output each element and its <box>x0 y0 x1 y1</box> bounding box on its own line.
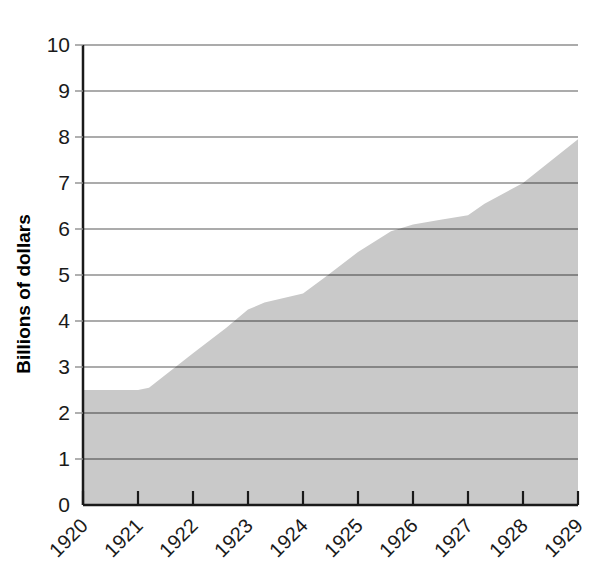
chart-container: 012345678910 192019211922192319241925192… <box>0 0 605 583</box>
y-tick-label-7: 7 <box>58 171 70 194</box>
y-tick-label-3: 3 <box>58 355 70 378</box>
y-tick-label-6: 6 <box>58 217 70 240</box>
y-tick-label-8: 8 <box>58 125 70 148</box>
y-tick-label-1: 1 <box>58 447 70 470</box>
y-tick-label-10: 10 <box>47 33 70 56</box>
y-tick-label-0: 0 <box>58 493 70 516</box>
y-tick-label-2: 2 <box>58 401 70 424</box>
y-tick-label-9: 9 <box>58 79 70 102</box>
area-chart: 012345678910 192019211922192319241925192… <box>0 0 605 583</box>
y-tick-label-4: 4 <box>58 309 70 332</box>
y-tick-label-5: 5 <box>58 263 70 286</box>
y-axis-title: Billions of dollars <box>13 214 34 373</box>
